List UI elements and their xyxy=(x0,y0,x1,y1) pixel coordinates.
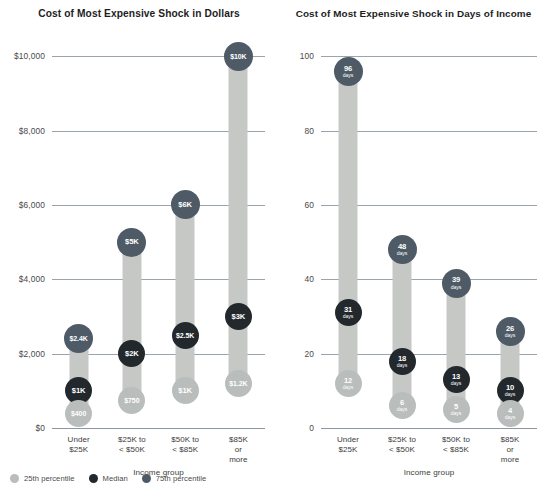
bar-slot: $10K$3K$1.2K xyxy=(212,34,265,428)
data-point-bubble-p75[interactable]: $2.4K xyxy=(64,324,93,353)
y-axis-tick-label: $2,000 xyxy=(19,349,45,359)
legend-label: 75th percentile xyxy=(156,474,207,483)
data-point-bubble-p75[interactable]: 26days xyxy=(496,317,525,346)
range-bar[interactable] xyxy=(229,56,248,383)
data-point-bubble-p75[interactable]: $6K xyxy=(171,190,200,219)
x-axis-category-label: $85K or more xyxy=(225,435,252,466)
data-point-unit: days xyxy=(451,381,461,386)
legend-label: Median xyxy=(103,474,128,483)
data-point-value: 39 xyxy=(452,276,460,284)
data-point-value: $3K xyxy=(232,313,246,321)
x-axis-categories-days: Under $25K$25K to < $50K$50K to < $85K$8… xyxy=(321,428,537,462)
data-point-bubble-p25[interactable]: 6days xyxy=(389,392,416,419)
legend-swatch-icon xyxy=(142,474,151,483)
data-point-unit: days xyxy=(343,314,353,319)
data-point-unit: days xyxy=(343,385,353,390)
chart-title-dollars: Cost of Most Expensive Shock in Dollars xyxy=(0,8,278,19)
legend-item-p75[interactable]: 75th percentile xyxy=(142,474,207,483)
data-point-bubble-p75[interactable]: 39days xyxy=(442,269,471,298)
y-axis-tick-label: $4,000 xyxy=(19,274,45,284)
chart-title-days: Cost of Most Expensive Shock in Days of … xyxy=(278,8,549,19)
data-point-value: $6K xyxy=(178,201,192,209)
data-point-value: $2.4K xyxy=(70,335,88,342)
data-point-value: $10K xyxy=(230,53,246,60)
x-axis-category-label: Under $25K xyxy=(337,435,359,455)
data-point-unit: days xyxy=(505,333,515,338)
range-bar[interactable] xyxy=(393,250,412,406)
y-axis-tick-label: 80 xyxy=(304,126,314,136)
chart-panel-days: Cost of Most Expensive Shock in Days of … xyxy=(278,0,549,495)
y-axis-tick-label: 100 xyxy=(300,51,314,61)
bar-slot: 96days31days12days xyxy=(321,34,375,428)
legend-item-med[interactable]: Median xyxy=(89,474,128,483)
x-axis-category-label: Under $25K xyxy=(68,435,90,455)
data-point-value: $2K xyxy=(125,350,139,358)
y-axis-tick-label: $10,000 xyxy=(14,51,45,61)
data-point-value: $400 xyxy=(71,410,86,417)
data-point-bubble-med[interactable]: $2.5K xyxy=(172,322,199,349)
data-point-value: $1K xyxy=(72,387,86,395)
data-point-value: $5K xyxy=(125,238,139,246)
legend-swatch-icon xyxy=(10,474,19,483)
data-point-unit: days xyxy=(505,415,515,420)
data-point-bubble-p75[interactable]: $10K xyxy=(224,42,253,71)
bar-group-days: 96days31days12days48days18days6days39day… xyxy=(321,34,537,428)
data-point-value: $2.5K xyxy=(176,332,194,339)
x-axis-category-label: $50K to < $85K xyxy=(442,435,470,455)
range-bar[interactable] xyxy=(339,71,358,383)
data-point-bubble-med[interactable]: 31days xyxy=(335,299,362,326)
bar-slot: 26days10days4days xyxy=(483,34,537,428)
range-bar[interactable] xyxy=(176,205,195,391)
legend-swatch-icon xyxy=(89,474,98,483)
data-point-bubble-p25[interactable]: $1K xyxy=(172,377,199,404)
data-point-bubble-p75[interactable]: 96days xyxy=(334,57,363,86)
x-axis-category-label: $25K to < $50K xyxy=(388,435,416,455)
bar-slot: $5K$2K$750 xyxy=(105,34,158,428)
data-point-value: $1.2K xyxy=(229,380,247,387)
x-axis-label-days: Income group xyxy=(321,468,537,477)
x-axis-category-label: $25K to < $50K xyxy=(118,435,146,455)
y-axis-tick-label: 20 xyxy=(304,349,314,359)
data-point-bubble-p75[interactable]: $5K xyxy=(117,228,146,257)
y-axis-tick-label: $8,000 xyxy=(19,126,45,136)
x-axis-category-label: $50K to < $85K xyxy=(171,435,199,455)
data-point-unit: days xyxy=(451,411,461,416)
data-point-unit: days xyxy=(397,407,407,412)
data-point-bubble-p75[interactable]: 48days xyxy=(388,235,417,264)
data-point-bubble-p25[interactable]: 12days xyxy=(335,370,362,397)
y-axis-tick-label: 60 xyxy=(304,200,314,210)
chart-page: Cost of Most Expensive Shock in Dollars … xyxy=(0,0,549,495)
data-point-bubble-p25[interactable]: $1.2K xyxy=(225,370,252,397)
x-axis-category-label: $85K or more xyxy=(497,435,524,466)
chart-panel-dollars: Cost of Most Expensive Shock in Dollars … xyxy=(0,0,278,495)
data-point-bubble-med[interactable]: 18days xyxy=(389,348,416,375)
y-axis-tick-label: $0 xyxy=(35,423,45,433)
x-axis-categories-dollars: Under $25K$25K to < $50K$50K to < $85K$8… xyxy=(52,428,265,462)
plot-area-days: 020406080100 96days31days12days48days18d… xyxy=(321,34,537,428)
data-point-value: $750 xyxy=(124,397,139,404)
y-axis-tick-label: 40 xyxy=(304,274,314,284)
data-point-value: $1K xyxy=(178,387,192,395)
data-point-unit: days xyxy=(397,363,407,368)
data-point-unit: days xyxy=(343,73,353,78)
data-point-bubble-p25[interactable]: $750 xyxy=(118,387,145,414)
data-point-bubble-med[interactable]: $3K xyxy=(225,303,252,330)
data-point-value: 4 xyxy=(508,407,512,415)
data-point-bubble-p25[interactable]: 4days xyxy=(497,400,524,427)
data-point-unit: days xyxy=(397,251,407,256)
plot-area-dollars: $0$2,000$4,000$6,000$8,000$10,000 $2.4K$… xyxy=(52,34,265,428)
legend-item-p25[interactable]: 25th percentile xyxy=(10,474,75,483)
bar-slot: 48days18days6days xyxy=(375,34,429,428)
data-point-bubble-med[interactable]: 13days xyxy=(443,366,470,393)
data-point-bubble-p25[interactable]: 5days xyxy=(443,396,470,423)
chart-legend: 25th percentileMedian75th percentile xyxy=(10,474,206,483)
range-bar[interactable] xyxy=(122,242,141,400)
data-point-bubble-p25[interactable]: $400 xyxy=(65,400,92,427)
data-point-unit: days xyxy=(451,285,461,290)
bar-group-dollars: $2.4K$1K$400$5K$2K$750$6K$2.5K$1K$10K$3K… xyxy=(52,34,265,428)
bar-slot: $6K$2.5K$1K xyxy=(159,34,212,428)
bar-slot: $2.4K$1K$400 xyxy=(52,34,105,428)
data-point-value: 18 xyxy=(398,355,406,363)
bar-slot: 39days13days5days xyxy=(429,34,483,428)
y-axis-tick-label: $6,000 xyxy=(19,200,45,210)
